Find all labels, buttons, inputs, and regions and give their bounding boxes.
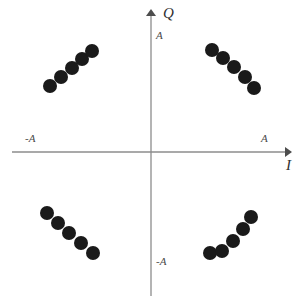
- i-axis-positive-tick-label: A: [261, 133, 268, 144]
- constellation-point: [244, 210, 258, 224]
- constellation-point: [43, 79, 57, 93]
- i-axis-arrowhead: [285, 147, 292, 157]
- q-axis-negative-tick-label: -A: [156, 256, 166, 267]
- i-axis-negative-tick-label: -A: [25, 133, 35, 144]
- constellation-point: [238, 70, 252, 84]
- constellation-point: [54, 70, 68, 84]
- constellation-point: [236, 222, 250, 236]
- constellation-point: [62, 226, 76, 240]
- constellation-point: [203, 246, 217, 260]
- constellation-point: [215, 244, 229, 258]
- q-axis-arrowhead: [146, 9, 156, 16]
- q-axis-label: Q: [163, 6, 174, 21]
- constellation-point: [40, 206, 54, 220]
- axes-group: [12, 9, 292, 296]
- i-axis-label: I: [286, 158, 291, 173]
- constellation-point: [247, 81, 261, 95]
- constellation-point: [51, 216, 65, 230]
- constellation-point: [86, 246, 100, 260]
- constellation-point: [216, 51, 230, 65]
- q-axis-positive-tick-label: A: [156, 30, 163, 41]
- constellation-diagram: Q I A -A A -A: [0, 0, 302, 301]
- constellation-point: [85, 44, 99, 58]
- constellation-point: [226, 234, 240, 248]
- constellation-point: [74, 236, 88, 250]
- plot-canvas: [0, 0, 302, 301]
- constellation-point: [227, 60, 241, 74]
